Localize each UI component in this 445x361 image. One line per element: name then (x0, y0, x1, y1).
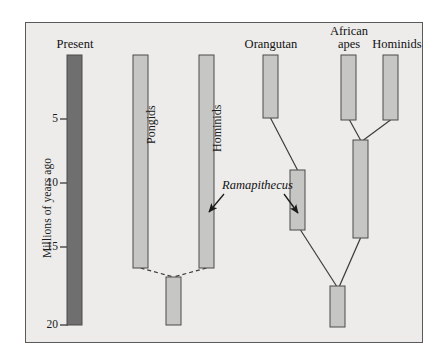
tick-label-5: 5 (36, 112, 58, 124)
lineage-bar-hominids-left (199, 55, 214, 268)
connector-pongids-to-stem (141, 268, 174, 277)
connector-orangutan-to-rama-stem (271, 118, 298, 170)
label-pongids: Pongids (144, 105, 159, 144)
figure-root: Millions of years ago 5 10 15 20 Present… (0, 0, 445, 361)
lineage-bar-hominids-right (383, 55, 398, 120)
present-scale-bar (67, 55, 82, 325)
lineage-bar-african-apes (341, 55, 356, 120)
panel-traditional-view (133, 55, 214, 325)
connector-rama-stem-to-common (301, 230, 337, 286)
connector-african-apes-to-stem (350, 120, 361, 140)
label-orangutan: Orangutan (230, 38, 312, 51)
label-present: Present (35, 38, 115, 51)
ramapithecus-arrows (209, 194, 298, 213)
tick-label-15: 15 (36, 240, 58, 252)
lineage-bar-common-stem-left (166, 277, 181, 325)
connector-african-hominid-stem-to-common (340, 238, 361, 286)
lineage-bar-orangutan (263, 55, 278, 118)
tick-label-10: 10 (36, 176, 58, 188)
lineage-bar-pongids (133, 55, 148, 268)
annotation-ramapithecus: Ramapithecus (222, 178, 293, 193)
connector-hominids-to-stem (174, 268, 207, 277)
connector-hominids-right-to-stem (364, 120, 391, 140)
lineage-bar-common-stem-right (330, 286, 345, 327)
label-hominids-left: Hominids (210, 105, 225, 152)
tick-label-20: 20 (36, 318, 58, 330)
label-hominids-right: Hominids (356, 38, 438, 51)
lineage-bar-african-hominid-stem (353, 140, 368, 238)
